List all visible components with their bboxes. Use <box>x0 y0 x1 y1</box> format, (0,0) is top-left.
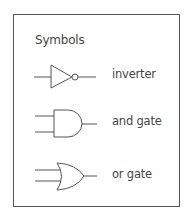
not-gate-icon <box>34 65 96 88</box>
and-gate-icon <box>35 110 97 137</box>
inverter-label: inverter <box>112 67 156 81</box>
or-gate-label: or gate <box>112 167 152 181</box>
symbols-drawing <box>0 0 192 217</box>
or-gate-icon <box>35 163 97 190</box>
and-gate-label: and gate <box>112 114 162 128</box>
